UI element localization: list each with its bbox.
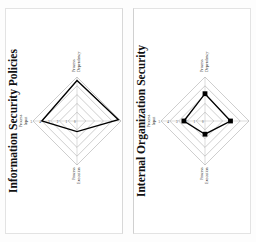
axis-label-process-dependency-right: Process Dependency	[200, 52, 209, 72]
radar-series-left	[42, 81, 119, 132]
tick-4: 4	[167, 120, 169, 124]
data-marker	[228, 119, 233, 124]
radar-svg-right: 0 1 2 3 4 5	[159, 75, 251, 167]
tick-5: 5	[31, 120, 33, 124]
radar-spokes-left	[33, 77, 121, 165]
panel-inner-right: Internal Organization Security	[133, 8, 251, 234]
panel-inner-left: Information Security Policies	[5, 8, 123, 234]
axis-label-process-input-left: Process Input	[19, 115, 28, 128]
rotated-figure-right: Internal Organization Security	[133, 8, 251, 234]
tick-0: 0	[74, 120, 76, 124]
axis-label-process-execution-right: Process Execution	[200, 167, 209, 184]
axis-label-process-execution-left: Process Execution	[72, 167, 81, 184]
radar-chart-left: 0 1 2 3 4 5 Process Input	[31, 75, 123, 167]
tick-5: 5	[159, 120, 161, 124]
data-marker	[182, 119, 187, 124]
panel-internal-organization-security: Internal Organization Security	[128, 0, 256, 242]
tick-4: 4	[39, 120, 41, 124]
tick-0: 0	[202, 120, 204, 124]
radar-chart-right: 0 1 2 3 4 5	[159, 75, 251, 167]
radar-svg-left: 0 1 2 3 4 5	[31, 75, 123, 167]
data-marker	[203, 91, 208, 96]
radar-spokes-right	[161, 77, 249, 165]
panel-information-security-policies: Information Security Policies	[0, 0, 128, 242]
tick-1: 1	[66, 120, 68, 124]
tick-2: 2	[57, 120, 59, 124]
rotated-figure-left: Information Security Policies	[5, 8, 123, 234]
axis-label-process-input-right: Process Input	[147, 115, 156, 128]
data-marker	[203, 132, 208, 137]
tick-3: 3	[176, 120, 178, 124]
figure-sheet: Information Security Policies	[0, 0, 256, 242]
axis-label-process-dependency-left: Process Dependency	[72, 52, 81, 72]
tick-1: 1	[194, 120, 196, 124]
